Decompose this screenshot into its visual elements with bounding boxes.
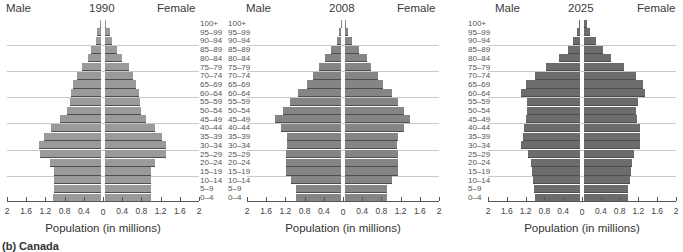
female-bar [584, 107, 636, 115]
x-tick [526, 197, 527, 201]
age-group-label: 0–4 [468, 193, 481, 202]
age-group-label: 5–9 [468, 184, 481, 193]
figure-caption: (b) Canada [2, 240, 59, 252]
female-bar [584, 185, 628, 193]
x-tick [601, 197, 602, 201]
x-axis-title: Population (in millions) [524, 222, 640, 234]
female-bar [584, 28, 590, 36]
age-group-label: 15–19 [468, 167, 490, 176]
female-bar [584, 20, 587, 28]
male-bar [573, 37, 580, 45]
age-group-label: 85–89 [468, 45, 490, 54]
female-bar [584, 115, 637, 123]
female-bar [584, 89, 645, 97]
age-group-label: 50–54 [468, 106, 490, 115]
gridline [488, 176, 676, 177]
age-group-label: 30–34 [468, 141, 490, 150]
x-tick [563, 197, 564, 201]
gridline [488, 45, 676, 46]
x-tick-label: 1.2 [632, 206, 644, 216]
gridline [488, 97, 676, 98]
male-bar [528, 150, 580, 158]
female-bar [584, 141, 640, 149]
age-group-label: 90–94 [468, 36, 490, 45]
gridline [488, 150, 676, 151]
x-tick [676, 197, 677, 201]
male-bar [532, 167, 580, 175]
x-tick-label: 2 [674, 206, 679, 216]
female-bar [584, 167, 631, 175]
female-bar [584, 72, 636, 80]
x-tick-label: 2 [486, 206, 491, 216]
female-label: Female [637, 2, 675, 14]
x-axis [488, 201, 676, 202]
male-bar [521, 89, 580, 97]
age-group-label: 10–14 [468, 176, 490, 185]
male-bar [527, 98, 580, 106]
age-group-label: 25–29 [468, 150, 490, 159]
male-bar [523, 133, 580, 141]
male-bar [535, 72, 580, 80]
gridline [488, 123, 676, 124]
x-tick [488, 197, 489, 201]
age-group-label: 35–39 [468, 132, 490, 141]
male-bar [568, 46, 580, 54]
female-bar [584, 133, 640, 141]
male-bar [546, 63, 580, 71]
male-bar [521, 141, 580, 149]
male-bar [559, 54, 580, 62]
female-bar [584, 46, 603, 54]
age-group-label: 65–69 [468, 80, 490, 89]
age-group-label: 75–79 [468, 63, 490, 72]
x-tick [544, 197, 545, 201]
panel-title: 2025 [568, 2, 594, 14]
age-group-label: 100+ [468, 19, 486, 28]
female-bar [584, 80, 643, 88]
x-tick [582, 197, 583, 201]
female-bar [584, 150, 634, 158]
male-bar [531, 159, 580, 167]
age-group-label: 55–59 [468, 97, 490, 106]
female-bar [584, 159, 632, 167]
x-tick-label: 1.6 [651, 206, 663, 216]
female-bar [584, 176, 630, 184]
female-bar [584, 54, 611, 62]
x-tick-label: 0.8 [614, 206, 626, 216]
x-tick-label: 1.6 [501, 206, 513, 216]
age-group-label: 45–49 [468, 115, 490, 124]
female-bar [584, 37, 596, 45]
female-bar [584, 98, 638, 106]
x-tick-label: 0.8 [538, 206, 550, 216]
x-tick [507, 197, 508, 201]
male-label: Male [495, 2, 520, 14]
male-bar [526, 115, 580, 123]
female-bar [584, 124, 640, 132]
x-tick [657, 197, 658, 201]
age-group-label: 80–84 [468, 54, 490, 63]
age-group-label: 95–99 [468, 28, 490, 37]
age-group-label: 20–24 [468, 158, 490, 167]
male-bar [533, 176, 580, 184]
x-tick-label: 1.2 [520, 206, 532, 216]
male-bar [577, 28, 580, 36]
female-bar [584, 63, 624, 71]
age-group-label: 40–44 [468, 123, 490, 132]
x-tick-label: 0 [580, 207, 585, 217]
x-tick-label: 0.4 [557, 206, 569, 216]
age-group-label: 70–74 [468, 71, 490, 80]
x-tick [638, 197, 639, 201]
male-bar [579, 20, 580, 28]
age-group-label: 60–64 [468, 89, 490, 98]
male-bar [524, 124, 580, 132]
x-tick-label: 0.4 [595, 206, 607, 216]
male-bar [534, 185, 580, 193]
male-bar [527, 107, 580, 115]
x-tick [620, 197, 621, 201]
male-bar [526, 80, 580, 88]
gridline [488, 71, 676, 72]
